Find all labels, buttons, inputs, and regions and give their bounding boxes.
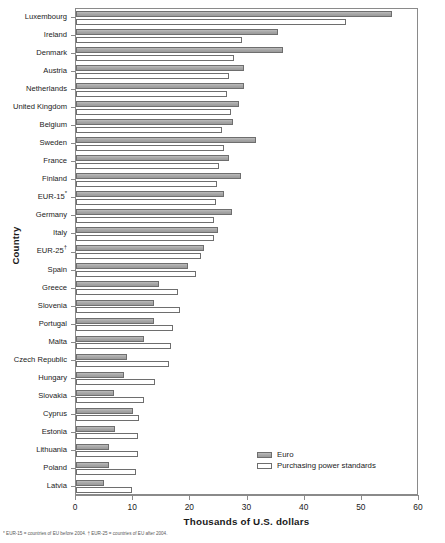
chart-figure: Country LuxembourgIrelandDenmarkAustriaN… xyxy=(0,0,445,543)
y-axis-label: Germany xyxy=(36,206,67,225)
bar-row xyxy=(76,9,417,27)
bar-purchasing-power-standards xyxy=(76,91,227,97)
bar-purchasing-power-standards xyxy=(76,37,242,43)
bar-euro xyxy=(76,47,283,53)
bar-purchasing-power-standards xyxy=(76,55,234,61)
bar-row xyxy=(76,135,417,153)
bar-euro xyxy=(76,300,154,306)
bar-purchasing-power-standards xyxy=(76,379,155,385)
bar-purchasing-power-standards xyxy=(76,325,173,331)
plot-area xyxy=(75,8,418,495)
bar-purchasing-power-standards xyxy=(76,271,196,277)
bar-purchasing-power-standards xyxy=(76,73,229,79)
bar-purchasing-power-standards xyxy=(76,469,136,475)
bar-row xyxy=(76,99,417,117)
bar-row xyxy=(76,225,417,243)
bar-purchasing-power-standards xyxy=(76,235,214,241)
x-axis-tick-label: 30 xyxy=(232,502,262,512)
x-axis-tick-label: 10 xyxy=(117,502,147,512)
bar-purchasing-power-standards xyxy=(76,217,214,223)
bar-row xyxy=(76,153,417,171)
bar-row xyxy=(76,171,417,189)
y-axis-label: Latvia xyxy=(47,477,67,496)
y-axis-label: France xyxy=(43,152,67,171)
y-axis-label: Slovenia xyxy=(38,297,67,316)
x-axis-tick xyxy=(132,495,133,500)
y-axis-label: Portugal xyxy=(39,315,67,334)
bar-purchasing-power-standards xyxy=(76,397,144,403)
legend-entry-euro: Euro xyxy=(257,449,376,460)
bar-purchasing-power-standards xyxy=(76,343,171,349)
x-axis-tick xyxy=(304,495,305,500)
bar-row xyxy=(76,27,417,45)
bar-row xyxy=(76,478,417,496)
bar-euro xyxy=(76,263,188,269)
legend-label-pps: Purchasing power standards xyxy=(277,461,376,470)
bar-row xyxy=(76,45,417,63)
bar-euro xyxy=(76,408,133,414)
y-axis-label: Italy xyxy=(53,224,67,243)
bar-purchasing-power-standards xyxy=(76,181,217,187)
bar-euro xyxy=(76,101,239,107)
x-axis-tick xyxy=(418,495,419,500)
bar-purchasing-power-standards xyxy=(76,109,231,115)
x-axis-tick-label: 0 xyxy=(60,502,90,512)
bar-purchasing-power-standards xyxy=(76,127,222,133)
y-axis-label: Spain xyxy=(48,261,67,280)
y-axis-label: Austria xyxy=(43,62,67,81)
bar-row xyxy=(76,352,417,370)
bar-row xyxy=(76,316,417,334)
y-axis-label: Cyprus xyxy=(43,405,67,424)
bar-row xyxy=(76,388,417,406)
bar-row xyxy=(76,334,417,352)
bar-euro xyxy=(76,191,224,197)
bar-euro xyxy=(76,336,144,342)
bar-row xyxy=(76,279,417,297)
x-axis-tick-label: 60 xyxy=(403,502,433,512)
y-axis-label: EUR-25† xyxy=(37,242,67,261)
bar-euro xyxy=(76,29,278,35)
bar-euro xyxy=(76,65,244,71)
y-axis-label: Greece xyxy=(42,279,67,298)
y-axis-label: United Kingdom xyxy=(13,98,67,117)
y-axis-label: EUR-15* xyxy=(38,188,67,207)
bar-row xyxy=(76,81,417,99)
y-axis-label: Denmark xyxy=(36,44,67,63)
y-axis-label: Belgium xyxy=(40,116,67,135)
bar-purchasing-power-standards xyxy=(76,487,132,493)
y-axis-label: Czech Republic xyxy=(14,351,67,370)
bar-purchasing-power-standards xyxy=(76,433,138,439)
legend-swatch-pps xyxy=(257,463,272,469)
bar-purchasing-power-standards xyxy=(76,199,216,205)
y-axis-label: Luxembourg xyxy=(25,8,67,27)
bar-row xyxy=(76,243,417,261)
y-axis-label: Poland xyxy=(43,459,67,478)
x-axis-tick-label: 40 xyxy=(289,502,319,512)
bar-rows xyxy=(76,9,417,494)
bar-euro xyxy=(76,390,114,396)
legend-label-euro: Euro xyxy=(277,450,293,459)
bar-euro xyxy=(76,227,218,233)
bar-euro xyxy=(76,83,244,89)
bar-row xyxy=(76,189,417,207)
bar-purchasing-power-standards xyxy=(76,415,139,421)
bar-row xyxy=(76,63,417,81)
bar-purchasing-power-standards xyxy=(76,289,178,295)
x-axis-tick-label: 20 xyxy=(174,502,204,512)
y-axis-label: Malta xyxy=(48,333,67,352)
bar-euro xyxy=(76,462,109,468)
bar-euro xyxy=(76,480,104,486)
legend-entry-pps: Purchasing power standards xyxy=(257,460,376,471)
bar-euro xyxy=(76,119,233,125)
bar-euro xyxy=(76,426,115,432)
bar-euro xyxy=(76,444,109,450)
bar-purchasing-power-standards xyxy=(76,145,224,151)
bar-row xyxy=(76,117,417,135)
chart-legend: Euro Purchasing power standards xyxy=(257,449,376,471)
x-axis-tick xyxy=(247,495,248,500)
bar-euro xyxy=(76,209,232,215)
y-axis-label: Sweden xyxy=(40,134,67,153)
bar-row xyxy=(76,370,417,388)
y-axis-category-labels: LuxembourgIrelandDenmarkAustriaNetherlan… xyxy=(0,8,72,495)
x-axis-tick xyxy=(189,495,190,500)
